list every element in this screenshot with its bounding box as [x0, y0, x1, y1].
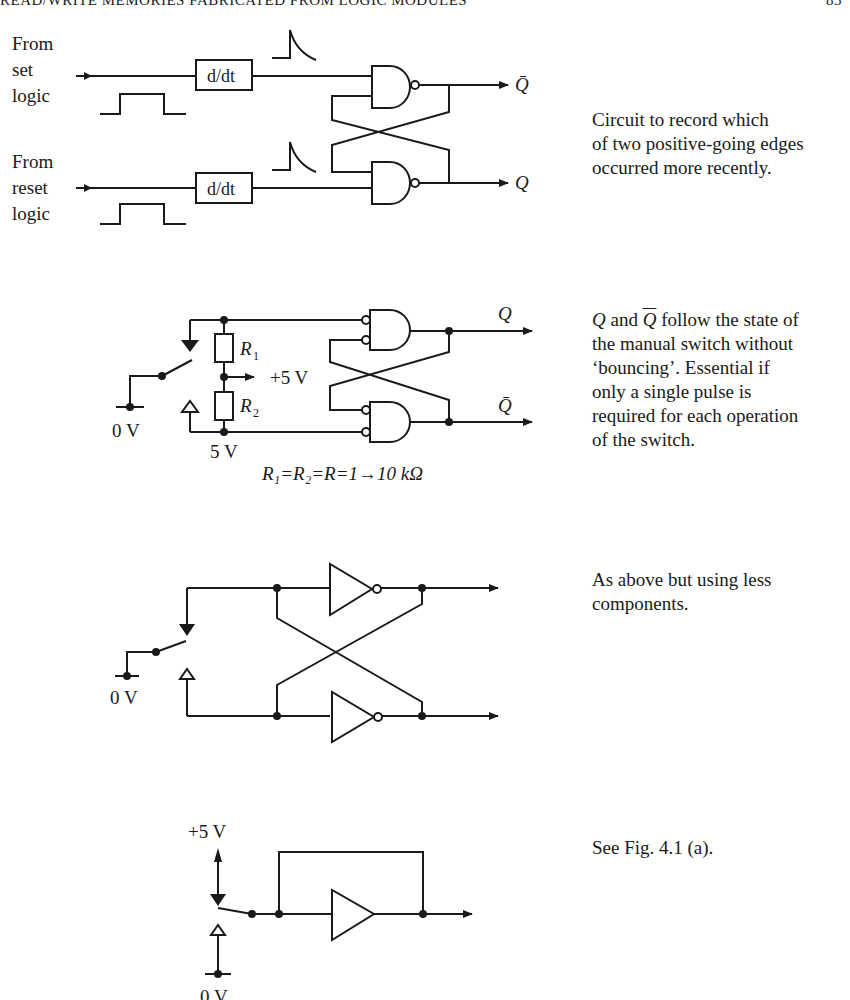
- ground-label: 0 V: [112, 420, 140, 441]
- output-qbar-label: Q̄: [515, 74, 529, 95]
- inverter-bottom: [332, 692, 374, 742]
- ground-wire: [130, 376, 162, 407]
- spike-top-icon: [272, 30, 316, 60]
- resistor-r2: [215, 392, 233, 420]
- arrow-icon: [84, 184, 92, 192]
- arrow-icon: [84, 72, 92, 80]
- r1-label: R: [239, 338, 252, 359]
- switch-contact-filled-icon: [210, 894, 226, 906]
- caption-qbar: Q: [643, 309, 657, 330]
- set-input-label-3: logic: [12, 85, 50, 106]
- figure-debounce-buffer: +5 V 0 V: [188, 821, 472, 1000]
- inverter-bubble: [362, 406, 370, 414]
- switch-lever[interactable]: [156, 641, 186, 652]
- inverter-bubble: [362, 336, 370, 344]
- caption-line: occurred more recently.: [592, 156, 850, 180]
- caption-line: only a single pulse is: [592, 380, 850, 404]
- output-qbar-label: Q̄: [498, 395, 512, 416]
- gate-bottom: [370, 402, 410, 442]
- reset-input-label-2: reset: [12, 177, 49, 198]
- caption-line: the manual switch without: [592, 332, 850, 356]
- nand-gate-top: [372, 66, 410, 108]
- switch-lever[interactable]: [162, 360, 192, 376]
- junction-dot: [420, 911, 426, 917]
- differentiator-label-bottom: d/dt: [207, 179, 235, 199]
- caption-line: ‘bouncing’. Essential if: [592, 356, 850, 380]
- nand-gate-bottom: [372, 162, 410, 204]
- switch-contact-open-icon: [211, 925, 225, 935]
- switch-contact-filled-icon: [179, 624, 195, 636]
- switch-contact-filled-icon: [181, 340, 199, 352]
- buffer-gate: [332, 890, 374, 940]
- switch-contact-open-icon: [182, 401, 198, 412]
- caption-line: Circuit to record which: [592, 108, 850, 132]
- set-input-label-2: set: [12, 59, 34, 80]
- spike-bottom-icon: [272, 142, 316, 172]
- node-5v-label: 5 V: [210, 441, 238, 462]
- ground-label: 0 V: [110, 687, 138, 708]
- caption-debounce-nand: Q and Q follow the state of the manual s…: [592, 308, 850, 452]
- cross-wire-a: [277, 588, 422, 716]
- set-input-label-1: From: [12, 33, 53, 54]
- junction-dot: [215, 971, 221, 977]
- reset-input-label-3: logic: [12, 203, 50, 224]
- r2-subscript: 2: [253, 406, 259, 420]
- junction-dot: [127, 404, 133, 410]
- figure-edge-recorder: From set logic From reset logic d/dt Q̄ …: [12, 30, 529, 224]
- square-pulse-bottom-icon: [100, 204, 186, 224]
- inverter-bubble: [411, 81, 419, 89]
- caption-line: Q and Q follow the state of: [592, 308, 850, 332]
- inverter-top: [330, 564, 372, 615]
- r1-subscript: 1: [253, 349, 259, 363]
- caption-and: and: [606, 309, 643, 330]
- inverter-bubble: [374, 713, 382, 721]
- differentiator-label-top: d/dt: [207, 66, 235, 86]
- caption-q: Q: [592, 309, 606, 330]
- gate-top: [370, 310, 410, 350]
- cross-wire-b: [330, 331, 449, 410]
- caption-debounce-buffer: See Fig. 4.1 (a).: [592, 836, 850, 860]
- resistor-equation: R₁=R₂=R=1→10 kΩ: [261, 463, 423, 484]
- reset-input-label-1: From: [12, 151, 53, 172]
- caption-line: of two positive-going edges: [592, 132, 850, 156]
- switch-contact-open-icon: [180, 669, 194, 679]
- figure-debounce-inverters: 0 V: [110, 564, 498, 742]
- caption-edge-recorder: Circuit to record which of two positive-…: [592, 108, 850, 180]
- inverter-bubble: [411, 179, 419, 187]
- output-q-label: Q: [498, 303, 512, 324]
- inverter-bubble: [362, 428, 370, 436]
- r2-label: R: [239, 395, 252, 416]
- caption-line: required for each operation: [592, 404, 850, 428]
- square-pulse-top-icon: [100, 94, 186, 114]
- caption-line: of the switch.: [592, 428, 850, 452]
- output-q-label: Q: [515, 172, 529, 193]
- ground-wire: [127, 652, 156, 676]
- arrow-up-icon: [214, 848, 222, 862]
- supply-label: +5 V: [270, 367, 309, 388]
- caption-line: components.: [592, 592, 850, 616]
- caption-line: See Fig. 4.1 (a).: [592, 836, 850, 860]
- junction-dot: [124, 673, 130, 679]
- resistor-r1: [215, 334, 233, 362]
- cross-wire-b: [277, 588, 422, 716]
- caption-line: As above but using less: [592, 568, 850, 592]
- caption-rest: follow the state of: [656, 309, 798, 330]
- ground-label: 0 V: [200, 986, 228, 1000]
- figure-debounce-nand: R 1 +5 V R 2 5 V 0 V Q Q̄: [112, 303, 532, 484]
- feedback-wire: [279, 852, 423, 914]
- inverter-bubble: [362, 316, 370, 324]
- switch-lever[interactable]: [218, 908, 252, 914]
- cross-wire-b: [332, 85, 449, 172]
- inverter-bubble: [373, 585, 381, 593]
- caption-debounce-inverters: As above but using less components.: [592, 568, 850, 616]
- supply-label: +5 V: [188, 821, 227, 842]
